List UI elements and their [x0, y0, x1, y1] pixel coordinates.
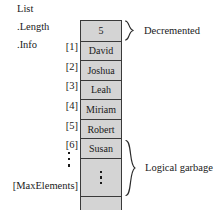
ellipsis-dot — [68, 152, 70, 154]
array-cell-3: Leah — [81, 81, 121, 101]
ellipsis-dot — [100, 182, 102, 184]
array-box: 5 David Joshua Leah Miriam Robert Susan — [80, 20, 122, 210]
list-length-label: .Length — [17, 21, 49, 33]
list-name-label: List — [17, 3, 33, 15]
index-label-5: [5] — [4, 120, 80, 132]
index-label-4: [4] — [4, 100, 80, 112]
max-elements-label: [MaxElements] — [4, 180, 80, 192]
curly-brace-icon — [124, 139, 137, 197]
logical-garbage-text: Logical garbage — [145, 162, 213, 174]
array-cell-2: Joshua — [81, 61, 121, 81]
index-ellipsis-icon — [6, 152, 80, 167]
array-cell-ellipsis-icon — [81, 159, 121, 197]
array-cell-4: Miriam — [81, 100, 121, 120]
ellipsis-dot — [68, 158, 70, 160]
array-cell-1: David — [81, 42, 121, 62]
array-cell-max-elements — [81, 197, 121, 210]
ellipsis-dot — [68, 164, 70, 166]
decremented-annotation: Decremented — [124, 20, 200, 41]
decremented-text: Decremented — [144, 25, 200, 37]
index-label-6: [6] — [4, 139, 80, 151]
array-cell-5: Robert — [81, 120, 121, 140]
ellipsis-dot — [100, 176, 102, 178]
length-cell: 5 — [81, 21, 121, 42]
index-label-2: [2] — [4, 61, 80, 73]
logical-garbage-annotation: Logical garbage — [124, 139, 213, 197]
array-cell-6: Susan — [81, 139, 121, 159]
curly-brace-icon — [124, 20, 135, 41]
ellipsis-dot — [100, 171, 102, 173]
index-label-3: [3] — [4, 80, 80, 92]
index-label-1: [1] — [4, 41, 80, 53]
